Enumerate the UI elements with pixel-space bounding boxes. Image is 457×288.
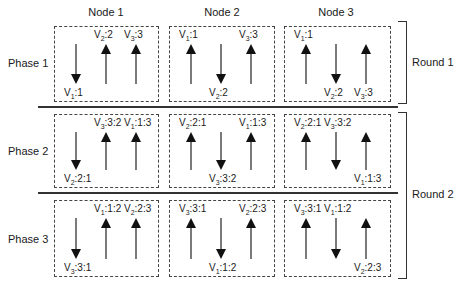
- arrow-up-icon: [100, 218, 112, 259]
- vote-label: V3:3: [354, 87, 373, 100]
- vote-label: V3:3:1: [64, 262, 91, 275]
- arrow-down-icon: [70, 44, 82, 84]
- vote-label: V1:1: [294, 29, 313, 42]
- vote-label: V3:3:2: [94, 117, 121, 130]
- round-2-label: Round 2: [412, 188, 454, 200]
- vote-label: V1:1:2: [324, 203, 351, 216]
- vote-label: V2:2:3: [124, 203, 151, 216]
- arrow-up-icon: [245, 132, 257, 170]
- arrow-down-icon: [70, 132, 82, 170]
- arrow-up-icon: [360, 132, 372, 170]
- arrow-up-icon: [245, 44, 257, 84]
- vote-label: V3:3:2: [324, 117, 351, 130]
- phase-3-label: Phase 3: [8, 233, 48, 245]
- vote-label: V2:2:3: [354, 262, 381, 275]
- round-1-label: Round 1: [412, 56, 454, 68]
- arrow-down-icon: [330, 132, 342, 170]
- arrow-down-icon: [215, 218, 227, 259]
- vote-label: V3:3:1: [294, 203, 321, 216]
- node-1-header: Node 1: [66, 6, 146, 18]
- phase-divider-2: [38, 192, 398, 194]
- vote-label: V2:2: [324, 87, 343, 100]
- arrow-up-icon: [300, 132, 312, 170]
- arrow-up-icon: [245, 218, 257, 259]
- vote-label: V3:3: [124, 29, 143, 42]
- vote-label: V3:3:1: [179, 203, 206, 216]
- arrow-up-icon: [185, 218, 197, 259]
- arrow-up-icon: [300, 218, 312, 259]
- vote-label: V2:2: [94, 29, 113, 42]
- arrow-down-icon: [215, 44, 227, 84]
- arrow-up-icon: [185, 44, 197, 84]
- vote-label: V2:2:1: [179, 117, 206, 130]
- node-2-header: Node 2: [182, 6, 262, 18]
- vote-label: V1:1: [64, 87, 83, 100]
- phase-divider-1: [38, 106, 398, 108]
- vote-label: V1:1:3: [124, 117, 151, 130]
- round-2-bracket: [398, 112, 407, 279]
- arrow-down-icon: [215, 132, 227, 170]
- arrow-up-icon: [100, 132, 112, 170]
- phase-2-label: Phase 2: [8, 145, 48, 157]
- arrow-up-icon: [360, 44, 372, 84]
- phase-1-label: Phase 1: [8, 57, 48, 69]
- vote-label: V2:2:1: [294, 117, 321, 130]
- arrow-down-icon: [70, 218, 82, 259]
- arrow-up-icon: [130, 44, 142, 84]
- vote-label: V1:1: [179, 29, 198, 42]
- round-1-bracket: [398, 21, 407, 104]
- vote-label: V3:3: [239, 29, 258, 42]
- arrow-up-icon: [130, 132, 142, 170]
- arrow-up-icon: [360, 218, 372, 259]
- vote-label: V2:2: [209, 87, 228, 100]
- vote-label: V2:2:3: [239, 203, 266, 216]
- vote-label: V1:1:2: [209, 262, 236, 275]
- vote-label: V1:1:3: [239, 117, 266, 130]
- arrow-down-icon: [330, 218, 342, 259]
- arrow-up-icon: [300, 44, 312, 84]
- vote-label: V1:1:2: [94, 203, 121, 216]
- arrow-up-icon: [100, 44, 112, 84]
- arrow-up-icon: [185, 132, 197, 170]
- arrow-down-icon: [330, 44, 342, 84]
- vote-label: V3:3:2: [209, 173, 236, 186]
- node-3-header: Node 3: [296, 6, 376, 18]
- vote-label: V2:2:1: [64, 173, 91, 186]
- arrow-up-icon: [130, 218, 142, 259]
- vote-label: V1:1:3: [354, 173, 381, 186]
